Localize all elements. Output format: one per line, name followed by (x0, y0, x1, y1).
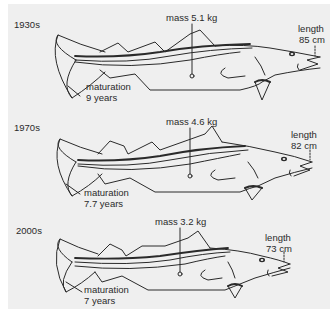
length-label-line2: 85 cm (299, 34, 325, 45)
mass-label: mass 4.6 kg (166, 116, 217, 127)
mass-label: mass 5.1 kg (166, 12, 217, 23)
maturation-label-line2: 7 years (84, 295, 115, 306)
mass-label: mass 3.2 kg (155, 216, 206, 227)
era-label: 2000s (16, 225, 42, 236)
length-label-line1: length (291, 129, 317, 140)
cod-panel-1970s: 1970s mass 4.6 kg length 82 cm maturatio… (0, 104, 336, 208)
maturation-label-line1: maturation (86, 81, 131, 92)
length-label-line2: 82 cm (291, 140, 317, 151)
length-label-line1: length (298, 23, 324, 34)
length-label-line2: 73 cm (266, 243, 292, 254)
maturation-label-line2: 9 years (86, 92, 117, 103)
cod-panel-1930s: 1930s mass 5.1 kg length 85 cm maturatio… (0, 0, 336, 104)
maturation-label-line1: maturation (84, 187, 129, 198)
era-label: 1970s (14, 122, 40, 133)
era-label: 1930s (14, 19, 40, 30)
cod-panel-2000s: 2000s mass 3.2 kg length 73 cm maturatio… (0, 206, 336, 310)
length-label-line1: length (265, 232, 291, 243)
maturation-label-line1: maturation (84, 284, 129, 295)
